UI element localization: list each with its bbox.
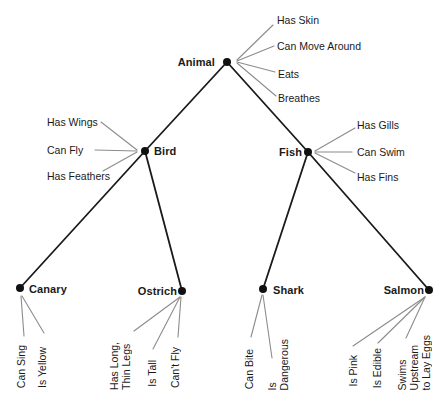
node-dot-shark: [259, 285, 267, 293]
node-dot-bird: [141, 147, 149, 155]
property-label-can-swim: Can Swim: [357, 146, 405, 158]
property-label-cant-fly: Can't Fly: [169, 347, 181, 388]
property-lines: [21, 25, 425, 358]
node-label-canary: Canary: [29, 283, 67, 295]
property-label-is-tall: Is Tall: [146, 360, 158, 387]
node-label-fish: Fish: [279, 146, 302, 158]
property-line-is-tall: [153, 297, 180, 349]
property-line-has-skin: [237, 25, 273, 60]
property-label-has-fins: Has Fins: [357, 171, 398, 183]
property-line-can-fly: [95, 150, 137, 151]
node-dot-ostrich: [178, 287, 186, 295]
edge-fish-shark: [263, 152, 308, 289]
property-line-can-bite: [251, 295, 262, 337]
property-label-is-edible: Is Edible: [371, 348, 383, 388]
property-line-can-move-around: [237, 46, 274, 61]
property-line-can-sing: [21, 296, 24, 336]
property-label-swims-upstream-lay-eggs: Swims Upstream to Lay Eggs: [396, 335, 432, 390]
diagram-canvas: [0, 0, 447, 401]
node-label-bird: Bird: [154, 145, 176, 157]
property-label-is-yellow: Is Yellow: [36, 347, 48, 388]
node-dot-animal: [223, 58, 231, 66]
node-label-shark: Shark: [273, 284, 304, 296]
property-line-has-fins: [315, 153, 355, 173]
property-label-is-dangerous: Is Dangerous: [266, 339, 290, 390]
property-label-can-bite: Can Bite: [243, 349, 255, 389]
property-label-can-move-around: Can Move Around: [277, 40, 361, 52]
property-line-has-gills: [315, 128, 355, 151]
node-dot-canary: [16, 284, 24, 292]
node-dot-salmon: [425, 286, 433, 294]
property-line-is-yellow: [22, 296, 44, 333]
property-label-eats: Eats: [278, 68, 299, 80]
property-label-can-fly: Can Fly: [47, 144, 83, 156]
node-label-salmon: Salmon: [384, 284, 424, 296]
node-dot-fish: [304, 148, 312, 156]
property-line-has-feathers: [103, 152, 137, 171]
property-label-can-sing: Can Sing: [15, 345, 27, 388]
property-label-is-pink: Is Pink: [347, 355, 359, 387]
property-line-eats: [237, 62, 275, 72]
edge-bird-ostrich: [145, 151, 182, 291]
property-line-cant-fly: [178, 297, 181, 337]
edge-animal-bird: [145, 62, 227, 151]
semantic-network-diagram: Animal Bird Fish Canary Ostrich Shark Sa…: [0, 0, 447, 401]
property-label-has-gills: Has Gills: [357, 119, 399, 131]
property-line-has-wings: [101, 122, 137, 150]
node-label-animal: Animal: [178, 56, 215, 68]
property-label-has-wings: Has Wings: [47, 116, 98, 128]
property-label-has-long-thin-legs: Has Long, Thin Legs: [108, 342, 132, 390]
property-label-has-skin: Has Skin: [277, 14, 319, 26]
property-label-breathes: Breathes: [278, 92, 320, 104]
node-label-ostrich: Ostrich: [138, 285, 177, 297]
property-line-has-long-thin-legs: [134, 297, 180, 331]
property-label-has-feathers: Has Feathers: [47, 170, 110, 182]
